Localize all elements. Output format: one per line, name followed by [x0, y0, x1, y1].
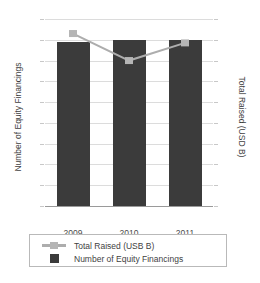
y-axis-right-title: Total Raised (USD B)	[237, 47, 247, 187]
line-series	[45, 19, 213, 206]
y-axis-left-tick-mark	[40, 40, 44, 41]
legend-square-marker-icon	[41, 254, 67, 263]
legend-label-total-raised: Total Raised (USB B)	[74, 241, 154, 251]
y-axis-left-tick-mark	[40, 102, 44, 103]
y-axis-left-title: Number of Equity Financings	[13, 47, 23, 187]
y-axis-left-tick-mark	[40, 185, 44, 186]
chart-container: Canada Trends Number of Equity Financing…	[0, 0, 260, 283]
legend-label-equity-financings: Number of Equity Financings	[74, 254, 183, 264]
y-axis-right-tick-mark	[214, 144, 218, 145]
x-axis-line	[45, 206, 213, 207]
y-axis-right-tick-mark	[214, 164, 218, 165]
chart-title: Canada Trends	[0, 0, 260, 2]
y-axis-right-tick-mark	[214, 185, 218, 186]
y-axis-right-tick-mark	[214, 19, 218, 20]
y-axis-left-tick-mark	[40, 19, 44, 20]
y-axis-right-tick-mark	[214, 206, 218, 207]
chart-legend: Total Raised (USB B) Number of Equity Fi…	[29, 234, 227, 267]
line-path	[73, 34, 185, 61]
y-axis-left-tick-mark	[40, 206, 44, 207]
legend-item-total-raised: Total Raised (USB B)	[41, 239, 226, 252]
y-axis-right-tick-mark	[214, 102, 218, 103]
line-marker	[69, 30, 77, 37]
y-axis-left-tick-mark	[40, 61, 44, 62]
y-axis-right-tick-mark	[214, 81, 218, 82]
y-axis-right-tick-mark	[214, 40, 218, 41]
plot-area: 9008007006005004003002001000 18161412108…	[45, 19, 213, 206]
y-axis-right-tick-mark	[214, 123, 218, 124]
y-axis-right-tick-mark	[214, 61, 218, 62]
y-axis-left-tick-mark	[40, 81, 44, 82]
legend-item-equity-financings: Number of Equity Financings	[41, 252, 226, 265]
line-marker	[125, 57, 133, 64]
y-axis-left-tick-mark	[40, 123, 44, 124]
legend-line-marker-icon	[41, 244, 67, 247]
line-marker	[181, 39, 189, 46]
y-axis-left-tick-mark	[40, 144, 44, 145]
y-axis-left-tick-mark	[40, 164, 44, 165]
